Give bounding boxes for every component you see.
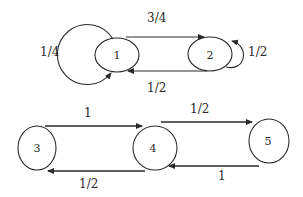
edge-label-1-2: 3/4 — [147, 11, 167, 25]
edge-label-1-1: 1/4 — [40, 45, 60, 59]
node-3: 3 — [18, 126, 56, 170]
node-label-1: 1 — [114, 49, 121, 62]
node-label-4: 4 — [150, 142, 157, 155]
node-4: 4 — [133, 126, 177, 170]
edge-label-3-4: 1 — [84, 106, 92, 120]
edge-label-4-3: 1/2 — [79, 177, 98, 191]
markov-chain-diagram: 1/4 3/4 1/2 1/2 1 2 1 1/2 1/2 — [0, 0, 303, 197]
edge-4-to-3: 1/2 — [48, 171, 145, 191]
edge-label-5-4: 1 — [218, 169, 226, 183]
edge-2-to-1: 1/2 — [128, 71, 207, 95]
node-label-5: 5 — [265, 135, 272, 148]
edge-3-to-4: 1 — [45, 106, 142, 126]
edge-1-to-1: 1/4 — [40, 25, 113, 85]
node-2: 2 — [188, 37, 232, 71]
edge-label-2-2: 1/2 — [248, 45, 267, 59]
edge-4-to-5: 1/2 — [161, 102, 252, 122]
node-5: 5 — [249, 119, 289, 163]
node-1: 1 — [95, 38, 139, 72]
edge-1-to-2: 3/4 — [126, 11, 204, 37]
node-label-2: 2 — [207, 49, 214, 62]
node-label-3: 3 — [34, 142, 41, 155]
edge-label-2-1: 1/2 — [147, 81, 166, 95]
edge-5-to-4: 1 — [169, 166, 259, 183]
edge-label-4-5: 1/2 — [190, 102, 209, 116]
